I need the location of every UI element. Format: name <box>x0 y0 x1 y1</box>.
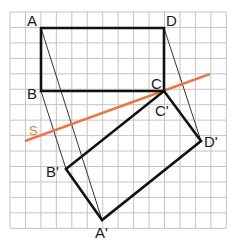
label-c: C <box>151 76 162 91</box>
label-b: B <box>27 86 37 101</box>
label-d-prime: D' <box>204 134 218 149</box>
reflection-axis-s <box>25 74 210 141</box>
label-c-prime: C' <box>155 103 169 118</box>
label-b-prime: B' <box>46 164 59 179</box>
label-a: A <box>27 13 37 28</box>
label-d: D <box>166 13 177 28</box>
axis-label-s: S <box>29 124 38 137</box>
label-a-prime: A' <box>95 225 108 240</box>
